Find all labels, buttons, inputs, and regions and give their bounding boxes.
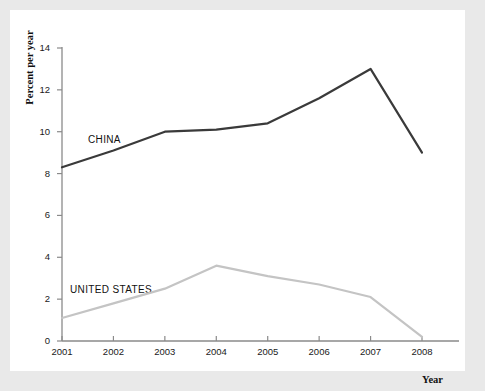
- y-tick-label: 6: [28, 209, 50, 220]
- y-tick-label: 0: [28, 335, 50, 346]
- y-tick-label: 8: [28, 168, 50, 179]
- x-tick-label: 2005: [248, 346, 288, 357]
- x-tick-label: 2002: [93, 346, 133, 357]
- chart-plot: [10, 10, 465, 371]
- x-tick-marks: [62, 336, 422, 341]
- y-tick-label: 2: [28, 293, 50, 304]
- y-tick-label: 14: [28, 42, 50, 53]
- x-tick-label: 2006: [299, 346, 339, 357]
- axis-lines: [62, 47, 459, 341]
- x-tick-label: 2007: [351, 346, 391, 357]
- x-tick-label: 2003: [145, 346, 185, 357]
- y-tick-label: 12: [28, 84, 50, 95]
- y-tick-label: 10: [28, 126, 50, 137]
- series-line-united-states: [62, 266, 422, 337]
- chart-card: Percent per year Year CHINA UNITED STATE…: [10, 10, 465, 371]
- figure-container: Percent per year Year CHINA UNITED STATE…: [0, 0, 485, 391]
- x-tick-label: 2004: [196, 346, 236, 357]
- x-tick-label: 2008: [402, 346, 442, 357]
- x-tick-label: 2001: [42, 346, 82, 357]
- y-tick-label: 4: [28, 251, 50, 262]
- series-paths: [62, 69, 422, 337]
- series-line-china: [62, 69, 422, 167]
- y-tick-marks: [57, 48, 62, 341]
- x-axis-title: Year: [422, 374, 443, 385]
